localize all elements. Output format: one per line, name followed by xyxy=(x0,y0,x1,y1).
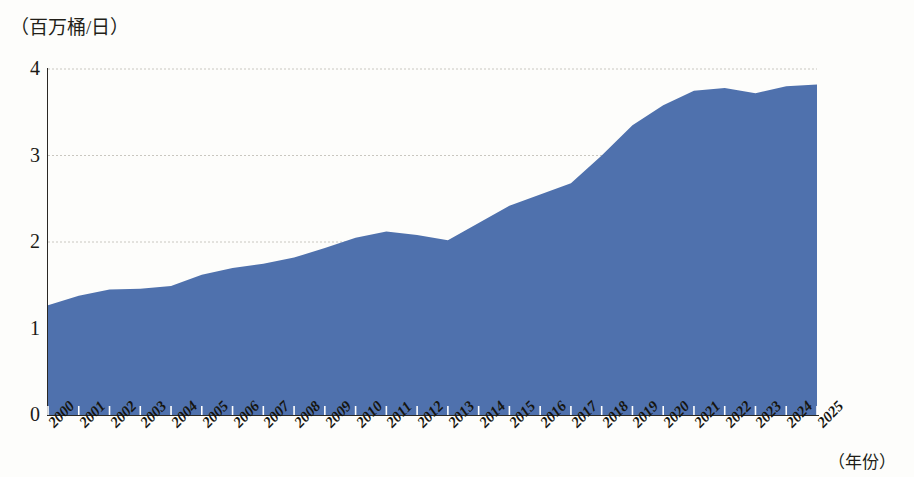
area-chart: （百万桶/日） 01234 20002001200220032004200520… xyxy=(0,0,914,477)
y-axis-tick-group: 01234 xyxy=(0,0,40,477)
plot-area xyxy=(48,69,817,415)
y-axis-tick-label: 0 xyxy=(18,404,40,424)
x-axis-caption: （年份） xyxy=(828,448,896,473)
y-axis-tick-label: 2 xyxy=(18,231,40,251)
y-axis-tick-label: 4 xyxy=(18,58,40,78)
area-series xyxy=(48,85,817,415)
x-axis-tick-label: 2025 xyxy=(814,398,847,431)
y-axis-tick-label: 3 xyxy=(18,145,40,165)
area-series-svg xyxy=(48,69,817,415)
x-axis-tick-group: 2000200120022003200420052006200720082009… xyxy=(48,419,838,477)
y-axis-tick-label: 1 xyxy=(18,318,40,338)
